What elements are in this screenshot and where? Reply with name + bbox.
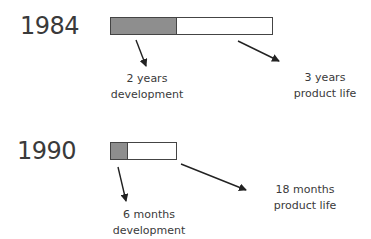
arrow-development-1990 — [118, 167, 126, 201]
arrow-product-life-1984 — [238, 41, 279, 61]
arrows-layer — [0, 0, 371, 239]
arrow-development-1984 — [136, 40, 146, 66]
arrow-product-life-1990 — [181, 164, 246, 190]
